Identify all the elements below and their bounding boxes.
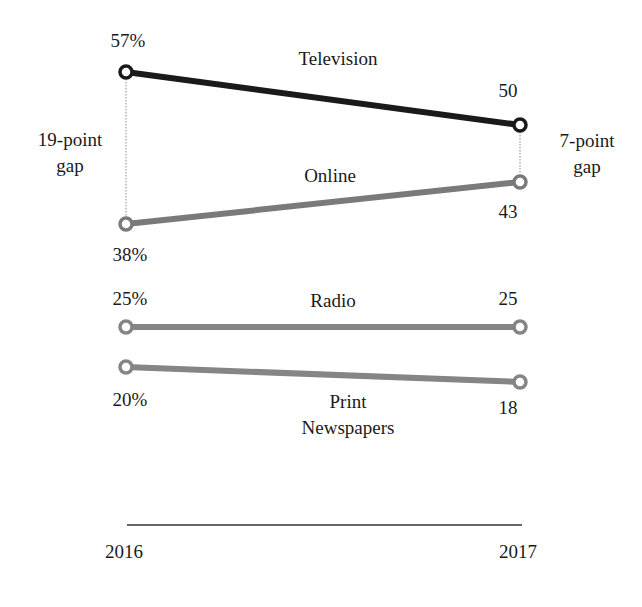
data-point-radio-2016 [120,321,132,333]
series-name-print-line1: Print [330,391,367,413]
series-name-print-line2: Newspapers [302,417,395,439]
gap-annotation-2016-line2: gap [56,155,83,177]
label-television-2016: 57% [111,30,146,52]
data-point-online-2016 [120,218,132,230]
gap-annotation-2017-line1: 7-point [560,130,615,152]
label-television-2017: 50 [499,80,518,102]
label-print-2016: 20% [113,389,148,411]
x-tick-2016: 2016 [105,541,143,563]
series-line-television [126,72,520,125]
label-print-2017: 18 [499,397,518,419]
gap-annotation-2017-line2: gap [573,156,600,178]
data-point-print-2017 [514,376,526,388]
data-point-print-2016 [120,361,132,373]
data-point-television-2016 [120,66,132,78]
data-point-online-2017 [514,176,526,188]
label-radio-2016: 25% [113,288,148,310]
gap-annotation-2016-line1: 19-point [38,129,102,151]
data-point-radio-2017 [514,321,526,333]
label-online-2016: 38% [113,244,148,266]
series-name-radio: Radio [310,290,355,312]
series-name-television: Television [299,48,378,70]
label-radio-2017: 25 [499,288,518,310]
data-point-television-2017 [514,119,526,131]
series-line-online [126,182,520,224]
label-online-2017: 43 [499,201,518,223]
x-tick-2017: 2017 [499,541,537,563]
series-name-online: Online [304,165,356,187]
series-line-print [126,367,520,382]
